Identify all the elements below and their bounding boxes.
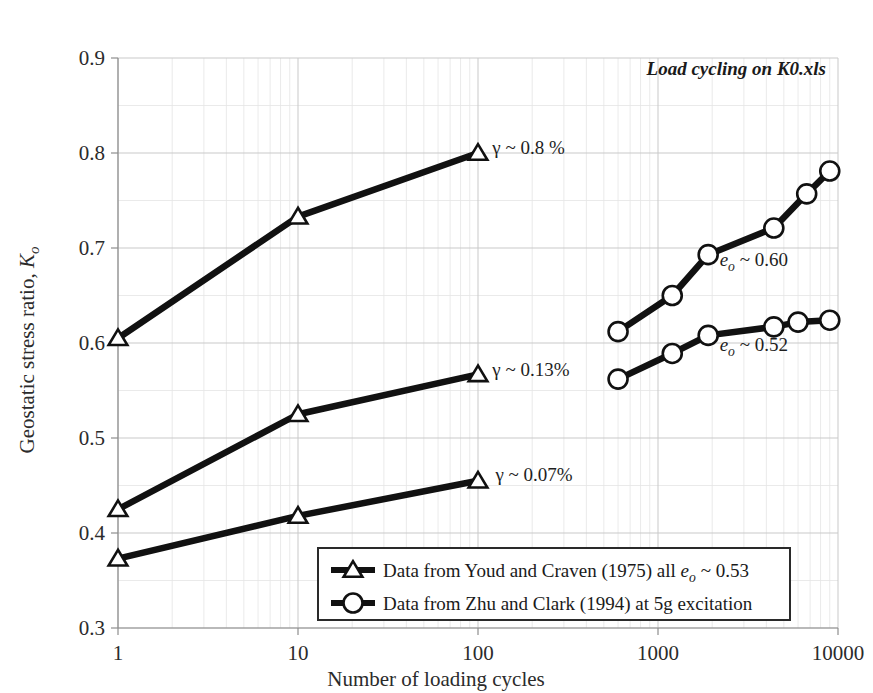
x-tick-label: 100 [462, 641, 494, 665]
annotation-gamma-0-07: γ ~ 0.07% [494, 464, 572, 485]
y-tick-label: 0.8 [79, 141, 105, 165]
chart-canvas: 0.30.40.50.60.70.80.9 110100100010000 γ … [0, 0, 873, 693]
chart-figure: 0.30.40.50.60.70.80.9 110100100010000 γ … [0, 0, 873, 693]
x-tick-label: 10000 [812, 641, 865, 665]
data-point-circle [344, 594, 363, 613]
x-tick-labels: 110100100010000 [113, 641, 865, 665]
figure-annotation-title: Load cycling on K0.xls [646, 58, 826, 79]
y-tick-labels: 0.30.40.50.60.70.80.9 [79, 46, 106, 640]
data-point-circle [699, 245, 718, 264]
y-axis-title-group: Geostatic stress ratio, Ko [15, 246, 42, 453]
data-point-circle [797, 184, 816, 203]
y-axis-title: Geostatic stress ratio, Ko [15, 246, 42, 453]
y-tick-label: 0.6 [79, 331, 105, 355]
data-point-circle [609, 370, 628, 389]
legend-item-label: Data from Zhu and Clark (1994) at 5g exc… [383, 593, 753, 615]
data-point-circle [699, 326, 718, 345]
data-point-circle [764, 219, 783, 238]
data-point-circle [609, 322, 628, 341]
x-tick-label: 1000 [637, 641, 679, 665]
legend-item[interactable]: Data from Zhu and Clark (1994) at 5g exc… [331, 593, 753, 615]
x-tick-label: 10 [288, 641, 309, 665]
data-point-circle [789, 313, 808, 332]
annotation-e0-0-52: eo ~ 0.52 [720, 334, 788, 359]
x-tick-label: 1 [113, 641, 124, 665]
x-axis-title: Number of loading cycles [327, 667, 545, 691]
y-tick-label: 0.4 [79, 521, 106, 545]
y-tick-label: 0.7 [79, 236, 105, 260]
data-point-circle [820, 311, 839, 330]
y-tick-label: 0.5 [79, 426, 105, 450]
annotation-gamma-0-8: γ ~ 0.8 % [491, 137, 565, 158]
annotation-gamma-0-13: γ ~ 0.13% [491, 359, 569, 380]
chart-legend: Data from Youd and Craven (1975) all eo … [318, 548, 790, 620]
data-point-circle [663, 344, 682, 363]
y-tick-label: 0.3 [79, 616, 105, 640]
data-point-circle [663, 286, 682, 305]
annotation-e0-0-60: eo ~ 0.60 [720, 249, 788, 274]
data-point-circle [820, 162, 839, 181]
annotations-group: γ ~ 0.8 %γ ~ 0.13%γ ~ 0.07%eo ~ 0.60eo ~… [491, 137, 788, 485]
y-tick-label: 0.9 [79, 46, 105, 70]
